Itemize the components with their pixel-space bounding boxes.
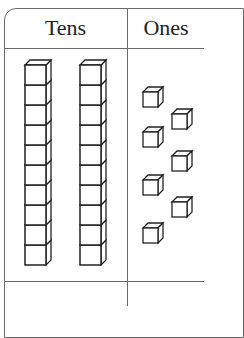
unit-cube	[143, 127, 163, 147]
unit-cube	[143, 223, 163, 243]
tens-rod	[80, 60, 106, 265]
unit-cube	[143, 175, 163, 195]
rod-cube	[25, 60, 51, 85]
rod-cube	[80, 60, 106, 85]
unit-cube	[172, 109, 192, 129]
unit-cube	[143, 87, 163, 107]
unit-cube	[172, 197, 192, 217]
ones-units	[143, 87, 192, 243]
tens-rod	[25, 60, 51, 265]
tens-rods	[25, 60, 106, 265]
unit-cube	[172, 151, 192, 171]
